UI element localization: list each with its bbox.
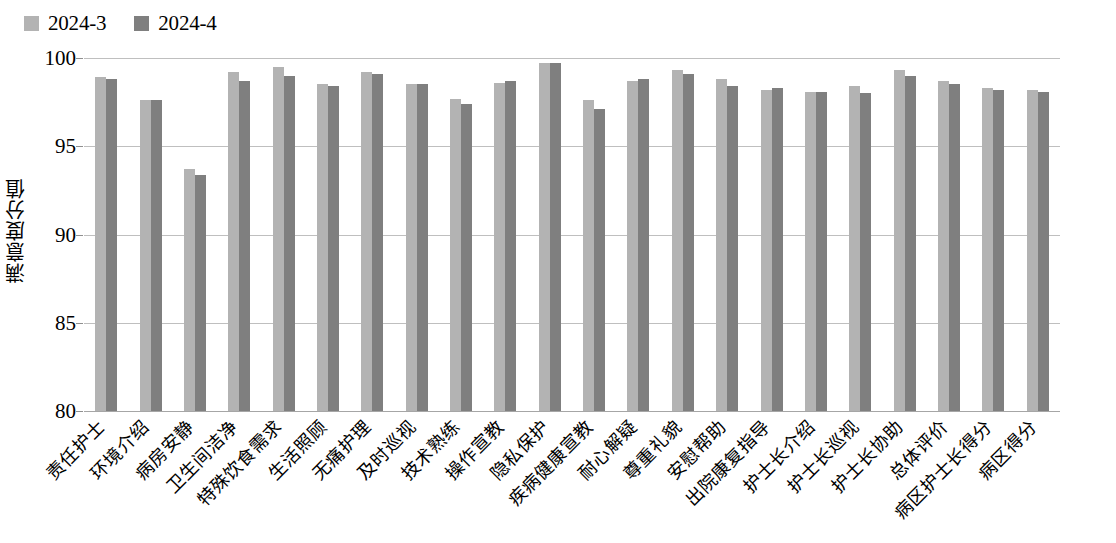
bar[interactable] bbox=[761, 90, 772, 411]
bar-group bbox=[439, 58, 483, 411]
bar[interactable] bbox=[328, 86, 339, 411]
bar[interactable] bbox=[1027, 90, 1038, 411]
legend-entry-2024-3[interactable]: 2024-3 bbox=[24, 13, 106, 34]
bar[interactable] bbox=[494, 83, 505, 411]
bar[interactable] bbox=[627, 81, 638, 411]
bar[interactable] bbox=[151, 100, 162, 411]
legend-label: 2024-4 bbox=[158, 13, 216, 34]
gridline bbox=[84, 411, 1060, 412]
bar-group bbox=[882, 58, 926, 411]
bar-group bbox=[705, 58, 749, 411]
bar[interactable] bbox=[860, 93, 871, 411]
bar-group bbox=[84, 58, 128, 411]
y-axis-tick bbox=[76, 235, 83, 236]
bar-group bbox=[749, 58, 793, 411]
bar[interactable] bbox=[905, 76, 916, 411]
legend-swatch-icon bbox=[134, 16, 149, 31]
bar[interactable] bbox=[406, 84, 417, 411]
bar-series-container bbox=[84, 58, 1060, 411]
bar[interactable] bbox=[982, 88, 993, 411]
bar[interactable] bbox=[672, 70, 683, 411]
bar[interactable] bbox=[417, 84, 428, 411]
y-axis-tick-label: 80 bbox=[28, 401, 76, 422]
y-axis-tick bbox=[76, 58, 83, 59]
bar[interactable] bbox=[195, 175, 206, 412]
bar-group bbox=[217, 58, 261, 411]
bar[interactable] bbox=[772, 88, 783, 411]
bar-group bbox=[927, 58, 971, 411]
bar-group bbox=[483, 58, 527, 411]
bar[interactable] bbox=[273, 67, 284, 411]
bar[interactable] bbox=[505, 81, 516, 411]
y-axis-tick-label: 100 bbox=[28, 48, 76, 69]
bar-group bbox=[128, 58, 172, 411]
bar[interactable] bbox=[461, 104, 472, 411]
y-axis-tick-labels: 10095908580 bbox=[24, 58, 76, 411]
plot-area bbox=[84, 58, 1060, 411]
bar[interactable] bbox=[550, 63, 561, 411]
y-axis-tick bbox=[76, 323, 83, 324]
bar-group bbox=[350, 58, 394, 411]
bar[interactable] bbox=[727, 86, 738, 411]
bar-group bbox=[395, 58, 439, 411]
y-axis-tick bbox=[76, 146, 83, 147]
bar-group bbox=[661, 58, 705, 411]
bar-group bbox=[616, 58, 660, 411]
bar[interactable] bbox=[993, 90, 1004, 411]
bar[interactable] bbox=[184, 169, 195, 411]
bar[interactable] bbox=[361, 72, 372, 411]
bar-group bbox=[572, 58, 616, 411]
legend-swatch-icon bbox=[24, 16, 39, 31]
bar[interactable] bbox=[583, 100, 594, 411]
y-axis-tick-label: 90 bbox=[28, 225, 76, 246]
legend-label: 2024-3 bbox=[48, 13, 106, 34]
bar[interactable] bbox=[949, 84, 960, 411]
bar[interactable] bbox=[594, 109, 605, 411]
bar-chart: 2024-3 2024-4 满意度分值 10095908580 责任护士环境介绍… bbox=[0, 0, 1116, 543]
bar-group bbox=[261, 58, 305, 411]
bar-group bbox=[306, 58, 350, 411]
bar[interactable] bbox=[938, 81, 949, 411]
bar[interactable] bbox=[894, 70, 905, 411]
bar-group bbox=[528, 58, 572, 411]
bar[interactable] bbox=[239, 81, 250, 411]
bar[interactable] bbox=[849, 86, 860, 411]
bar[interactable] bbox=[140, 100, 151, 411]
y-axis-tick-label: 85 bbox=[28, 313, 76, 334]
bar[interactable] bbox=[816, 92, 827, 411]
bar[interactable] bbox=[95, 77, 106, 411]
chart-legend: 2024-3 2024-4 bbox=[24, 10, 217, 36]
x-axis-category-labels: 责任护士环境介绍病房安静卫生间洁净特殊饮食需求生活照顾无痛护理及时巡视技术熟练操… bbox=[84, 413, 1060, 543]
bar[interactable] bbox=[106, 79, 117, 411]
bar-group bbox=[794, 58, 838, 411]
y-axis-tick-label: 95 bbox=[28, 136, 76, 157]
bar[interactable] bbox=[372, 74, 383, 411]
bar[interactable] bbox=[450, 99, 461, 411]
bar[interactable] bbox=[716, 79, 727, 411]
bar[interactable] bbox=[539, 63, 550, 411]
bar-group bbox=[173, 58, 217, 411]
bar-group bbox=[838, 58, 882, 411]
bar[interactable] bbox=[317, 84, 328, 411]
bar-group bbox=[1016, 58, 1060, 411]
bar-group bbox=[971, 58, 1015, 411]
bar[interactable] bbox=[638, 79, 649, 411]
y-axis-tick bbox=[76, 411, 83, 412]
bar[interactable] bbox=[228, 72, 239, 411]
bar[interactable] bbox=[284, 76, 295, 411]
bar[interactable] bbox=[805, 92, 816, 411]
bar[interactable] bbox=[1038, 92, 1049, 411]
x-label-cell: 病区得分 bbox=[1016, 413, 1060, 543]
bar[interactable] bbox=[683, 74, 694, 411]
legend-entry-2024-4[interactable]: 2024-4 bbox=[134, 13, 216, 34]
